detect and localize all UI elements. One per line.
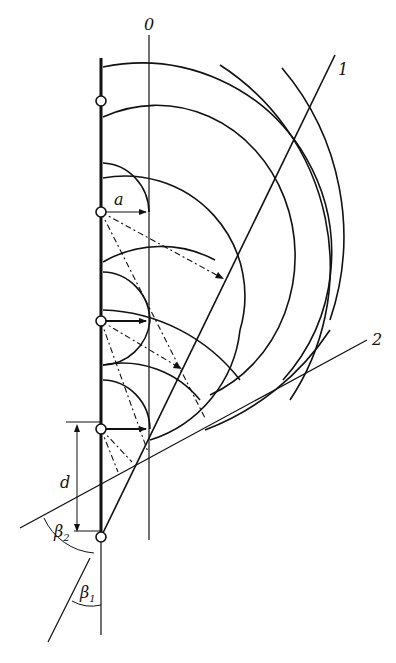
wavefront-arc [150,330,240,440]
label-axis-0: 0 [144,15,154,34]
wavefront-arc [103,246,215,262]
arrowhead [139,318,147,324]
label-line-1: 1 [338,60,348,79]
ray-dashed [101,321,180,368]
wavefront-arc [103,321,150,365]
wavefront-diagram: 0 1 2 a d β2 β1 [0,0,396,663]
wavefront-arc [282,68,344,320]
source-point [96,316,106,326]
arrowhead [139,426,147,432]
label-line-2: 2 [371,330,382,349]
arrowhead [215,272,224,279]
wavefront-arc [103,363,200,400]
source-point [96,424,106,434]
source-point [96,532,106,542]
source-point [96,96,106,106]
wavefront-arc [103,63,332,380]
ray-dashed [101,212,206,420]
label-beta1: β1 [79,583,96,604]
wavefront-arc [103,163,149,212]
label-beta2: β2 [53,522,70,543]
arrowhead [74,424,80,432]
ray-dashed [101,429,118,472]
arrowhead [139,209,147,215]
source-point [96,207,106,217]
label-spacing-d: d [60,473,70,492]
label-radius-a: a [114,190,124,209]
ray-dashed [101,212,222,278]
line-2 [20,340,367,528]
ray-dashed [101,429,132,462]
wavefront-arc [103,272,150,321]
wavefront-arc [103,380,150,429]
